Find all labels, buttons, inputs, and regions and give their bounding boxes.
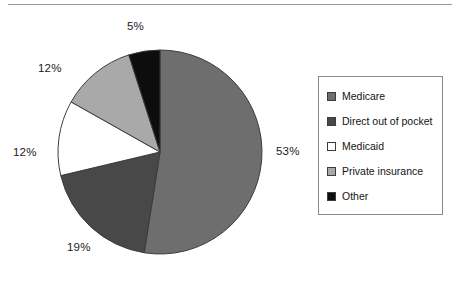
pie-label-medicaid: 12% — [13, 146, 37, 158]
legend-item-medicare[interactable]: Medicare — [327, 84, 442, 109]
legend-label-other: Other — [342, 191, 368, 202]
legend-swatch-icon-medicaid — [327, 142, 336, 151]
legend-item-private-insurance[interactable]: Private insurance — [327, 159, 442, 184]
pie-slice-group — [58, 50, 262, 254]
legend-swatch-icon-medicare — [327, 92, 336, 101]
legend-item-direct-out-of-pocket[interactable]: Direct out of pocket — [327, 109, 442, 134]
pie-label-other: 5% — [127, 20, 144, 32]
pie-slice-medicare[interactable] — [144, 50, 262, 254]
chart-legend: Medicare Direct out of pocket Medicaid P… — [318, 76, 443, 215]
legend-swatch-icon-private-insurance — [327, 167, 336, 176]
legend-swatch-icon-direct-out-of-pocket — [327, 117, 336, 126]
legend-label-private-insurance: Private insurance — [342, 166, 423, 177]
pie-label-medicare: 53% — [276, 145, 300, 157]
legend-label-medicaid: Medicaid — [342, 141, 384, 152]
legend-label-direct-out-of-pocket: Direct out of pocket — [342, 116, 432, 127]
pie-chart-area: 5% 12% 12% 19% 53% — [0, 0, 300, 285]
legend-swatch-icon-other — [327, 192, 336, 201]
legend-item-medicaid[interactable]: Medicaid — [327, 134, 442, 159]
pie-label-direct-out-of-pocket: 19% — [67, 241, 91, 253]
pie-label-private-insurance: 12% — [38, 62, 62, 74]
chart-figure: 5% 12% 12% 19% 53% Medicare Direct out o… — [0, 0, 460, 285]
legend-item-other[interactable]: Other — [327, 184, 442, 209]
pie-chart-svg — [0, 0, 300, 285]
legend-label-medicare: Medicare — [342, 91, 385, 102]
